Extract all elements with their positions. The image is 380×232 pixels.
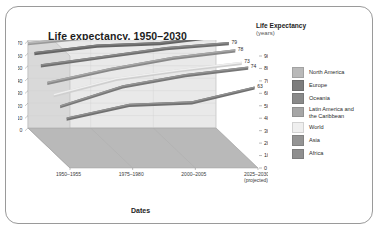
chart-plot-3d: 9080706050403020100908070605040302010082… [18,40,268,200]
chart-legend: North AmericaEuropeOceaniaLatin America … [292,66,378,161]
svg-text:0: 0 [264,165,267,171]
svg-text:2000–2005: 2000–2005 [181,171,206,177]
svg-text:73: 73 [244,58,250,64]
svg-text:90: 90 [264,53,268,59]
legend-swatch-icon [292,93,304,104]
svg-text:20: 20 [18,103,23,109]
legend-swatch-icon [292,67,304,78]
svg-text:63: 63 [257,83,263,89]
svg-text:10: 10 [18,115,23,121]
svg-text:70: 70 [264,78,268,84]
chart-page: Life expectancy, 1950–2030 9080706050403… [0,0,380,232]
legend-swatch-icon [292,122,304,133]
svg-text:60: 60 [18,53,23,59]
legend-label: Africa [309,150,323,157]
svg-text:0: 0 [20,127,23,133]
svg-text:20: 20 [264,140,268,146]
x-axis-title: Dates [131,207,150,214]
legend-label: North America [309,69,344,76]
svg-text:10: 10 [264,152,268,158]
legend-item[interactable]: World [292,121,378,134]
y-axis-title-text: Life Expectancy [256,22,306,29]
svg-text:(projected): (projected) [244,177,268,183]
legend-label: Oceania [309,95,330,102]
svg-text:79: 79 [231,40,237,45]
svg-text:30: 30 [18,90,23,96]
svg-text:50: 50 [18,65,23,71]
svg-text:74: 74 [251,63,257,69]
svg-text:30: 30 [264,128,268,134]
y-axis-title: Life Expectancy (years) [256,22,306,38]
legend-item[interactable]: Oceania [292,92,378,105]
legend-item[interactable]: Asia [292,134,378,147]
svg-text:40: 40 [264,115,268,121]
legend-label: Latin America and the Caribbean [309,106,354,121]
legend-item[interactable]: Europe [292,79,378,92]
y-axis-unit: (years) [256,30,306,38]
svg-text:78: 78 [238,46,244,52]
svg-text:70: 70 [18,40,23,46]
legend-label: Asia [309,137,320,144]
legend-swatch-icon [292,149,304,160]
legend-swatch-icon [292,107,304,118]
legend-item[interactable]: Latin America and the Caribbean [292,106,378,121]
svg-text:80: 80 [264,65,268,71]
legend-item[interactable]: North America [292,66,378,79]
legend-swatch-icon [292,135,304,146]
svg-text:60: 60 [264,90,268,96]
svg-text:1975–1980: 1975–1980 [119,171,144,177]
svg-text:50: 50 [264,103,268,109]
svg-text:1950–1955: 1950–1955 [56,171,81,177]
svg-text:40: 40 [18,78,23,84]
legend-label: World [309,124,324,131]
legend-label: Europe [309,82,327,89]
legend-swatch-icon [292,80,304,91]
legend-item[interactable]: Africa [292,148,378,161]
